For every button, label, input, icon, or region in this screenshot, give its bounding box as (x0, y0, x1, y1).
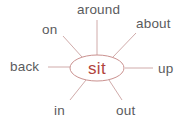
center-word: sit (88, 60, 106, 77)
word-around: around (77, 3, 120, 17)
word-on: on (42, 23, 57, 37)
word-back: back (10, 60, 39, 74)
word-out: out (116, 104, 135, 118)
connector-line-top-right (113, 33, 136, 57)
center-word-box: sit (70, 55, 124, 81)
word-about: about (136, 17, 171, 31)
word-in: in (54, 104, 65, 118)
word-web-diagram: around on about back up in out sit (0, 0, 177, 124)
connector-line-bottom-right (109, 80, 122, 100)
connector-line-bottom-left (70, 80, 86, 100)
connector-line-top-left (63, 36, 82, 57)
word-up: up (158, 62, 173, 76)
